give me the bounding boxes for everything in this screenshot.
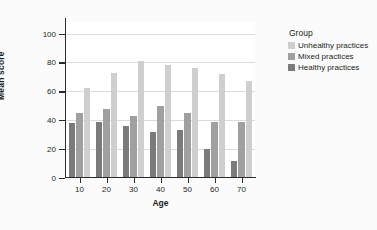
plot-area	[66, 22, 255, 178]
gridline	[66, 62, 255, 63]
y-axis-line	[65, 18, 66, 178]
x-axis-tick-label: 10	[75, 185, 84, 194]
y-axis-tick-label: 20	[47, 145, 56, 154]
bar	[138, 61, 145, 178]
x-axis-tick-label: 20	[102, 185, 111, 194]
y-axis-tick	[59, 178, 65, 179]
bar	[177, 130, 184, 178]
gridline	[66, 34, 255, 35]
bar	[211, 122, 218, 178]
x-axis-tick	[134, 178, 135, 183]
bar	[96, 122, 103, 178]
bar	[157, 106, 164, 178]
y-axis-tick-label: 40	[47, 116, 56, 125]
legend-item-label: Healthy practices	[298, 63, 359, 72]
bar	[165, 65, 172, 178]
x-axis-tick-label: 50	[183, 185, 192, 194]
y-axis-tick-label: 80	[47, 58, 56, 67]
gridline	[66, 91, 255, 92]
y-axis-title: Mean score	[0, 51, 6, 100]
y-axis-tick-label: 60	[47, 87, 56, 96]
y-axis-tick	[59, 120, 65, 121]
bar	[184, 113, 191, 178]
y-axis-tick	[59, 91, 65, 92]
x-axis-tick-label: 70	[237, 185, 246, 194]
y-axis-tick-label: 0	[52, 174, 56, 183]
x-axis-tick-label: 30	[129, 185, 138, 194]
legend-items: Unhealthy practicesMixed practicesHealth…	[288, 40, 376, 72]
x-axis-tick-label: 40	[156, 185, 165, 194]
bar	[103, 109, 110, 178]
bar	[246, 81, 253, 178]
x-axis-tick	[107, 178, 108, 183]
bar	[219, 74, 226, 178]
legend-item[interactable]: Healthy practices	[288, 62, 376, 72]
x-axis-tick-label: 60	[210, 185, 219, 194]
x-axis-tick	[161, 178, 162, 183]
bar	[204, 149, 211, 178]
bar	[76, 113, 83, 178]
bar	[69, 123, 76, 178]
y-axis-tick	[59, 62, 65, 63]
legend-item[interactable]: Unhealthy practices	[288, 40, 376, 50]
bar	[150, 132, 157, 178]
bar	[238, 122, 245, 178]
bar	[192, 68, 199, 178]
y-axis-tick	[59, 149, 65, 150]
legend-item-label: Mixed practices	[298, 52, 354, 61]
bar	[123, 126, 130, 178]
x-axis-tick	[188, 178, 189, 183]
legend-item-label: Unhealthy practices	[298, 41, 368, 50]
x-axis-tick	[242, 178, 243, 183]
legend-title: Group	[288, 28, 376, 38]
bar	[231, 161, 238, 178]
x-axis-tick	[80, 178, 81, 183]
bar	[130, 116, 137, 178]
chart-figure: 020406080100 10203040506070 Mean score A…	[0, 0, 377, 230]
legend: Group Unhealthy practicesMixed practices…	[288, 28, 376, 73]
x-axis-tick	[215, 178, 216, 183]
bar	[84, 88, 91, 178]
y-axis-tick	[59, 34, 65, 35]
legend-swatch-icon	[288, 64, 295, 71]
y-axis-tick-label: 100	[43, 29, 56, 38]
x-axis-title: Age	[66, 198, 255, 208]
legend-swatch-icon	[288, 53, 295, 60]
legend-item[interactable]: Mixed practices	[288, 51, 376, 61]
legend-swatch-icon	[288, 42, 295, 49]
bar	[111, 73, 118, 178]
